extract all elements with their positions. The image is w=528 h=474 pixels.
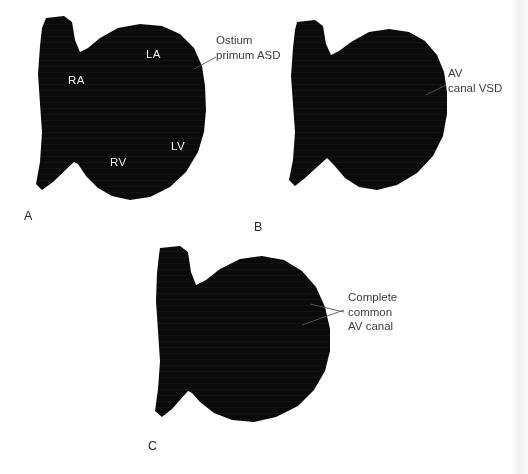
callout-line-2: common xyxy=(348,305,397,320)
heart-silhouette-c xyxy=(148,245,353,435)
heart-silhouette-a xyxy=(28,12,228,212)
chamber-label-la-a: LA xyxy=(146,48,161,60)
callout-complete-common-av-canal: Complete common AV canal xyxy=(348,290,397,334)
chamber-label-rv-a: RV xyxy=(110,156,127,168)
chamber-label-ra-a: RA xyxy=(68,74,85,86)
callout-line-1: Complete xyxy=(348,290,397,305)
heart-defect-figure: RA LA RV LV Ostium primum ASD A AV canal… xyxy=(0,0,528,474)
callout-line-1: Ostium xyxy=(216,33,281,48)
scan-artifact-band xyxy=(512,0,528,474)
callout-av-canal-vsd: AV canal VSD xyxy=(448,66,502,95)
heart-silhouette-b xyxy=(283,18,468,208)
callout-line-2: primum ASD xyxy=(216,48,281,63)
panel-letter-c: C xyxy=(148,439,157,453)
callout-ostium-primum-asd: Ostium primum ASD xyxy=(216,33,281,62)
panel-letter-a: A xyxy=(24,209,32,223)
chamber-label-lv-a: LV xyxy=(171,140,185,152)
panel-c xyxy=(148,245,353,435)
callout-line-1: AV xyxy=(448,66,502,81)
callout-line-2: canal VSD xyxy=(448,81,502,96)
panel-letter-b: B xyxy=(254,220,262,234)
panel-a: RA LA RV LV xyxy=(28,12,228,212)
callout-line-3: AV canal xyxy=(348,319,397,334)
panel-b xyxy=(283,18,468,208)
